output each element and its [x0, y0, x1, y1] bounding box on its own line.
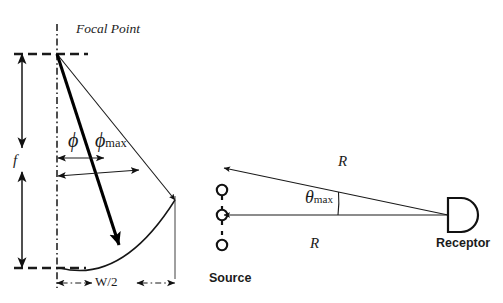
diagram-canvas — [0, 0, 503, 303]
path-R-upper-line — [224, 168, 448, 215]
focal-length-label: f — [13, 153, 17, 168]
focal-point-label: Focal Point — [76, 22, 140, 36]
angle-theta-max-symbol: θ — [305, 187, 314, 207]
angle-phi-label: ϕ — [68, 130, 78, 150]
range-upper-label: R — [338, 154, 347, 169]
theta-max-angle-arc — [338, 192, 339, 215]
angle-phi-max-symbol: ϕ — [95, 129, 105, 151]
ray-phi-max-line — [57, 54, 175, 200]
angle-theta-max-subscript: max — [314, 193, 333, 205]
source-element-top — [217, 185, 227, 195]
angle-phi-max-label: ϕmax — [95, 130, 127, 150]
left-panel-group — [14, 24, 175, 288]
angle-theta-max-label: θmax — [305, 188, 333, 206]
receptor-label: Receptor — [436, 237, 490, 250]
source-label: Source — [209, 272, 251, 285]
half-width-label: W/2 — [95, 275, 117, 288]
range-lower-label: R — [310, 236, 319, 251]
source-element-bottom — [217, 240, 227, 250]
angle-phi-max-span-arrow — [58, 170, 139, 176]
figure-root: Focal Point f ϕ ϕmax W/2 R R θmax Source… — [0, 0, 503, 303]
reflector-parabola-curve — [60, 200, 175, 271]
receptor-shape — [448, 198, 478, 232]
angle-phi-max-subscript: max — [105, 136, 126, 150]
